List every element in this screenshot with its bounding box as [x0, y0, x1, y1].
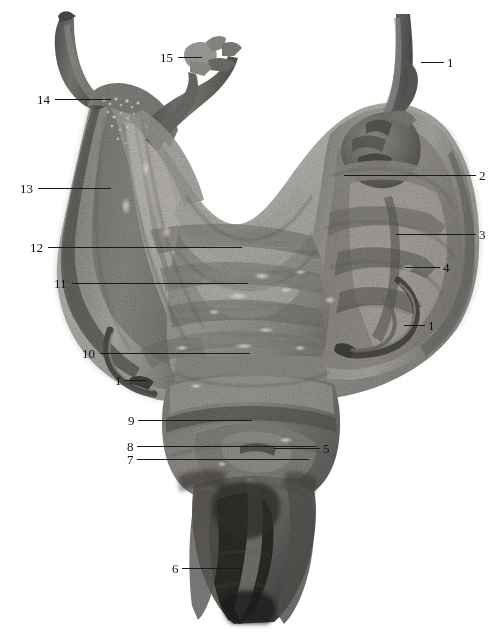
label-number-14[interactable]: 14 — [37, 93, 50, 106]
label-number-1-lower-right[interactable]: 1 — [428, 319, 435, 332]
leader-line-4 — [405, 267, 440, 268]
label-number-3[interactable]: 3 — [479, 228, 486, 241]
label-number-9[interactable]: 9 — [128, 414, 135, 427]
leader-line-9 — [138, 420, 252, 421]
leader-line-10 — [100, 353, 250, 354]
label-number-7[interactable]: 7 — [127, 453, 134, 466]
label-number-6[interactable]: 6 — [172, 562, 179, 575]
label-number-2[interactable]: 2 — [479, 169, 486, 182]
leader-line-13 — [38, 188, 111, 189]
leader-line-7 — [137, 459, 309, 460]
leader-line-14 — [55, 99, 111, 100]
leader-line-2 — [344, 175, 476, 176]
leader-line-1-upper-right — [421, 62, 444, 63]
leader-line-8 — [137, 446, 317, 447]
leader-line-12 — [48, 247, 242, 248]
label-number-12[interactable]: 12 — [30, 241, 43, 254]
label-number-13[interactable]: 13 — [20, 182, 33, 195]
label-number-11[interactable]: 11 — [54, 277, 67, 290]
leader-line-1-lower-left — [124, 380, 146, 381]
leader-line-6 — [182, 568, 242, 569]
leader-line-5 — [274, 448, 320, 449]
leader-line-15 — [178, 57, 202, 58]
label-number-1-upper-right[interactable]: 1 — [447, 56, 454, 69]
labeled-anatomy-figure: 1 2 3 4 1 5 6 7 8 9 10 1 — [0, 0, 499, 635]
label-number-1-lower-left[interactable]: 1 — [115, 374, 122, 387]
label-number-15[interactable]: 15 — [160, 51, 173, 64]
label-number-10[interactable]: 10 — [82, 347, 95, 360]
label-number-8[interactable]: 8 — [127, 440, 134, 453]
label-number-5[interactable]: 5 — [323, 442, 330, 455]
specimen-photograph — [0, 0, 499, 635]
label-number-4[interactable]: 4 — [443, 261, 450, 274]
leader-line-11 — [72, 283, 248, 284]
leader-line-3 — [396, 234, 476, 235]
leader-line-1-lower-right — [404, 325, 425, 326]
specimen-graphic — [0, 0, 499, 635]
